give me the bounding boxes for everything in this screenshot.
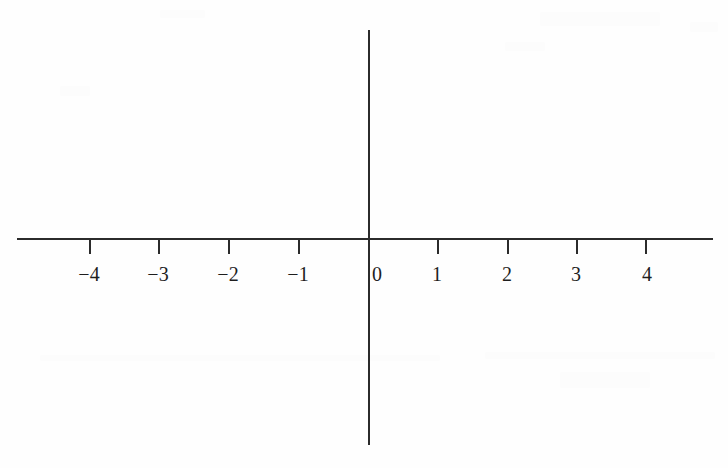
y-axis-line (368, 30, 370, 445)
tick-neg-2 (228, 238, 230, 254)
tick-pos-3-label: 3 (546, 264, 606, 284)
tick-pos-2 (507, 238, 509, 254)
tick-pos-3 (576, 238, 578, 254)
tick-neg-1-label: −1 (268, 264, 328, 284)
tick-zero-label: 0 (372, 264, 382, 284)
number-line-figure: −4−3−2−101234 (0, 0, 728, 468)
scan-artifact (505, 42, 545, 51)
tick-pos-1 (437, 238, 439, 254)
tick-pos-2-label: 2 (477, 264, 537, 284)
tick-neg-3-label: −3 (128, 264, 188, 284)
scan-artifact (690, 22, 718, 32)
x-axis-line (17, 238, 713, 240)
tick-neg-3 (158, 238, 160, 254)
scan-artifact (485, 352, 715, 359)
tick-pos-4-label: 4 (617, 264, 677, 284)
scan-artifact (60, 86, 90, 96)
tick-neg-1 (298, 238, 300, 254)
scan-artifact (540, 12, 660, 26)
tick-pos-1-label: 1 (407, 264, 467, 284)
scan-artifact (160, 10, 205, 18)
tick-pos-4 (645, 238, 647, 254)
tick-neg-4-label: −4 (59, 264, 119, 284)
scan-artifact (40, 355, 440, 361)
tick-neg-2-label: −2 (198, 264, 258, 284)
tick-neg-4 (89, 238, 91, 254)
scan-artifact (560, 372, 650, 388)
